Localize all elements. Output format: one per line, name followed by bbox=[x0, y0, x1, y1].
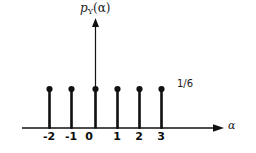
stem-point bbox=[92, 86, 98, 129]
stem-dot-icon bbox=[68, 86, 74, 92]
x-tick-label: 3 bbox=[157, 130, 165, 143]
stem-point bbox=[46, 86, 52, 129]
y-axis-title-argument: (α) bbox=[93, 1, 110, 15]
stem-series bbox=[46, 86, 164, 129]
x-axis-arrow-icon bbox=[213, 124, 224, 132]
y-axis-title-symbol: p bbox=[80, 1, 88, 15]
stem-point bbox=[158, 86, 164, 129]
pmf-figure: pY(α) α 1/6 -2 -1 0 1 2 3 bbox=[0, 0, 256, 153]
x-tick-label: -2 bbox=[43, 130, 55, 143]
x-tick-label: 0 bbox=[85, 130, 93, 143]
stem-dot-icon bbox=[114, 86, 120, 92]
x-tick-label: 1 bbox=[113, 130, 121, 143]
value-annotation-label: 1/6 bbox=[177, 79, 193, 89]
stem-point bbox=[136, 86, 142, 129]
y-axis-title: pY(α) bbox=[80, 2, 110, 16]
stem-dot-icon bbox=[136, 86, 142, 92]
stem-point bbox=[114, 86, 120, 129]
x-axis-title: α bbox=[228, 120, 235, 131]
stem-point bbox=[68, 86, 74, 129]
stem-dot-icon bbox=[158, 86, 164, 92]
x-tick-label: -1 bbox=[65, 130, 77, 143]
plot-canvas bbox=[0, 0, 256, 153]
x-tick-label: 2 bbox=[135, 130, 143, 143]
stem-dot-icon bbox=[92, 86, 98, 92]
y-axis-arrow-icon bbox=[92, 18, 99, 27]
stem-dot-icon bbox=[46, 86, 52, 92]
